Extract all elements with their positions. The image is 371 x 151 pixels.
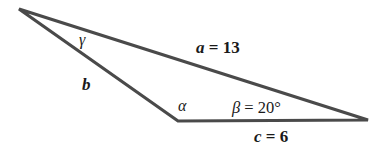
- triangle-diagram: γ b α a = 13 β = 20° c = 6: [0, 0, 371, 151]
- side-c-value: = 6: [262, 127, 289, 146]
- angle-beta-value: = 20°: [240, 98, 281, 117]
- side-c-label: c = 6: [254, 127, 288, 146]
- side-a-label: a = 13: [196, 38, 240, 57]
- angle-alpha-label: α: [178, 97, 187, 114]
- triangle-svg: γ b α a = 13 β = 20° c = 6: [0, 0, 371, 151]
- angle-gamma-label: γ: [79, 31, 86, 49]
- angle-beta-label: β = 20°: [231, 98, 281, 117]
- triangle-shape: [19, 9, 368, 121]
- side-b-label: b: [82, 75, 91, 94]
- side-a-value: = 13: [205, 38, 240, 57]
